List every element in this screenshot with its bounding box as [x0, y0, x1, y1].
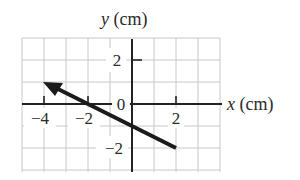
origin-label: 0: [117, 95, 126, 114]
y-axis-unit: (cm): [109, 9, 147, 30]
x-tick-label-neg2: −2: [75, 109, 93, 128]
x-axis-title: x (cm): [226, 94, 273, 115]
y-axis-title: y (cm): [99, 9, 147, 30]
y-tick-label-2: 2: [113, 51, 122, 70]
y-axis-var: y: [99, 9, 109, 29]
x-tick-label-neg4: −4: [31, 109, 50, 128]
vector-diagram: −4 −2 0 2 2 −2 x (cm) y (cm): [0, 0, 300, 180]
x-tick-label-2: 2: [172, 109, 181, 128]
x-axis-unit: (cm): [235, 94, 273, 115]
y-tick-label-neg2: −2: [105, 139, 123, 158]
x-axis-var: x: [226, 94, 235, 114]
